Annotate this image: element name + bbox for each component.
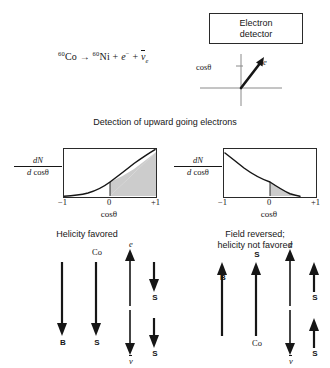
plot-right-ylabel: dN d cosθ [174, 156, 222, 177]
antineutrino-spin-arrow-down [149, 318, 159, 348]
detector-axis-cross [198, 52, 288, 108]
panel-left-electron-label: e [124, 239, 138, 249]
plot-left-ylabel-cos: cosθ [33, 167, 48, 177]
electron-charge: − [126, 50, 130, 57]
antineutrino-symbol: ν [141, 51, 146, 62]
antineutrino-flavor-subscript: e [146, 57, 149, 64]
panel-left-antineutrino-symbol: ν [129, 356, 133, 366]
panel-right-electron-spin-label: S [307, 293, 323, 302]
detector-label-line1: Electron [239, 18, 272, 28]
cos-theta-axis-callout: cosθ [196, 62, 211, 72]
plot-right-xtick-zero: 0 [267, 197, 271, 207]
cobalt-spin-arrow-down [91, 262, 101, 336]
plot-right-ylabel-d: d [187, 167, 191, 177]
cobalt-spin-arrow-up [251, 262, 261, 336]
plot-left-frame [63, 148, 157, 198]
nickel-symbol: Ni [100, 51, 110, 62]
detector-label-line2: detector [240, 29, 273, 39]
electron-direction-arrow [241, 57, 264, 88]
caption-field-reversed-line1: Field reversed; [225, 229, 285, 239]
panel-right-co-spin-label: S [249, 250, 265, 259]
electron-spin-arrow-up [309, 262, 319, 292]
panel-left-antineutrino-spin-label: S [147, 349, 163, 358]
detection-caption: Detection of upward going electrons [0, 117, 330, 128]
panel-right-b-label: B [215, 273, 231, 282]
plot-left-ylabel-d: d [27, 167, 31, 177]
plot-right-xtick-plus1: +1 [311, 197, 320, 207]
antineutrino-spin-arrow-up [309, 318, 319, 348]
panel-right-antineutrino-label: ν [283, 356, 299, 366]
plot-right-xlabel: cosθ [223, 209, 315, 219]
decay-equation: 60Co → 60Ni + e− + νe [58, 50, 149, 64]
plot-right-frame [223, 148, 317, 198]
electron-spin-arrow-down [149, 262, 159, 292]
vector-panel-helicity-favored: B Co S e S ν S [38, 248, 170, 366]
plot-right-ylabel-denominator: d cosθ [174, 167, 222, 177]
plot-left-ylabel: dN d cosθ [14, 156, 62, 177]
plot-left-xticks: −1 0 +1 [58, 197, 160, 207]
electron-momentum-arrow-up [285, 249, 295, 306]
plot-left-curve-svg [64, 149, 156, 197]
panel-right-antineutrino-spin-label: S [307, 349, 323, 358]
panel-left-electron-spin-label: S [147, 293, 163, 302]
plot-left-ylabel-denominator: d cosθ [14, 167, 62, 177]
plot-left-xlabel: cosθ [63, 209, 155, 219]
reaction-arrow-icon: → [80, 51, 90, 62]
plot-left-ylabel-numerator: dN [14, 156, 62, 167]
plot-right-xticks: −1 0 +1 [218, 197, 320, 207]
plot-right-ylabel-numerator: dN [174, 156, 222, 167]
plot-left-xtick-plus1: +1 [151, 197, 160, 207]
vector-panel-field-reversed: B S Co e S ν S [198, 248, 330, 366]
antineutrino-symbol-group: ν [141, 51, 146, 62]
antineutrino-momentum-arrow-down [125, 310, 135, 355]
panel-left-co-spin-label: S [89, 338, 105, 347]
panel-right-electron-label: e [284, 239, 298, 249]
panel-right-co-label: Co [247, 338, 267, 348]
plot-right-xtick-minus1: −1 [218, 197, 227, 207]
cobalt-mass-number: 60 [58, 50, 65, 57]
electron-momentum-arrow-up [125, 249, 135, 306]
plot-right-curve-svg [224, 149, 316, 197]
plot-right-distribution-curve [225, 153, 300, 196]
plot-right-ylabel-cos: cosθ [193, 167, 208, 177]
plot-left-xtick-zero: 0 [107, 197, 111, 207]
plot-left-xtick-minus1: −1 [58, 197, 67, 207]
panel-left-b-label: B [55, 338, 71, 347]
b-field-arrow-down [57, 262, 67, 336]
antineutrino-overbar-icon [141, 50, 145, 51]
electron-detector-box: Electron detector [209, 13, 303, 44]
cobalt-symbol: Co [65, 51, 77, 62]
plus-sign-1: + [113, 51, 119, 62]
panel-right-antineutrino-symbol: ν [289, 356, 293, 366]
panel-left-antineutrino-label: ν [123, 356, 139, 366]
plus-sign-2: + [132, 51, 138, 62]
panel-left-co-label: Co [87, 247, 107, 257]
antineutrino-momentum-arrow-down [285, 310, 295, 355]
electron-arrow-label: e [263, 57, 267, 67]
nickel-mass-number: 60 [93, 50, 100, 57]
